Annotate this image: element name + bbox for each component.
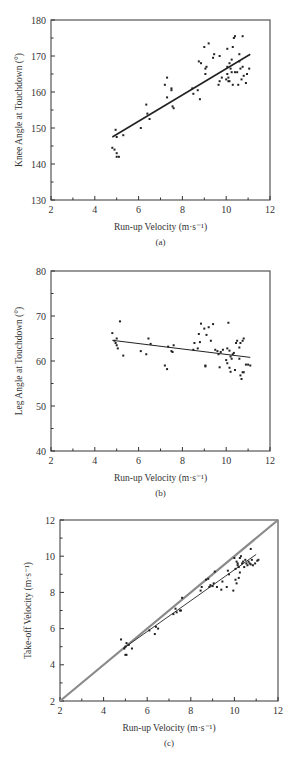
x-axis-label: Run-up Velocity (m·s⁻¹) xyxy=(114,222,207,233)
data-point xyxy=(245,364,247,366)
data-point xyxy=(204,73,206,75)
data-point xyxy=(238,53,240,55)
data-point xyxy=(219,55,221,57)
data-point xyxy=(191,87,193,89)
data-point xyxy=(125,654,127,656)
y-tick-label: 130 xyxy=(31,195,46,206)
data-point xyxy=(228,350,230,352)
data-point xyxy=(204,68,206,70)
data-point xyxy=(238,577,240,579)
y-tick-label: 40 xyxy=(36,446,46,457)
data-point xyxy=(238,566,240,568)
x-axis-label: Run-up Velocity (m·s⁻¹) xyxy=(122,723,215,734)
data-point xyxy=(245,562,247,564)
data-point xyxy=(118,156,120,158)
data-point xyxy=(203,328,205,330)
data-point xyxy=(230,68,232,70)
data-point xyxy=(128,644,130,646)
x-tick-label: 10 xyxy=(229,705,239,716)
data-point xyxy=(250,548,252,550)
data-point xyxy=(225,78,227,80)
x-tick-label: 2 xyxy=(58,705,63,716)
data-point xyxy=(170,87,172,89)
data-point xyxy=(246,564,248,566)
x-tick-label: 8 xyxy=(180,455,185,466)
data-point xyxy=(226,48,228,50)
data-point xyxy=(238,358,240,360)
data-point xyxy=(166,368,168,370)
figure-charts: 24681012130140150160170180Run-up Velocit… xyxy=(0,0,294,766)
data-point xyxy=(244,559,246,561)
data-point xyxy=(205,579,207,581)
data-point xyxy=(225,359,227,361)
data-point xyxy=(230,356,232,358)
data-point xyxy=(218,84,220,86)
chart-c: 2468101224681012Run-up Velocity (m·s⁻¹)T… xyxy=(23,515,283,749)
x-tick-label: 8 xyxy=(180,204,185,215)
data-point xyxy=(200,62,202,64)
data-point xyxy=(216,586,218,588)
data-point xyxy=(117,347,119,349)
data-point xyxy=(214,349,216,351)
data-point xyxy=(164,84,166,86)
data-point xyxy=(111,147,113,149)
data-point xyxy=(234,369,236,371)
data-point xyxy=(172,613,174,615)
data-point xyxy=(114,340,116,342)
y-tick-label: 140 xyxy=(31,159,46,170)
data-point xyxy=(176,611,178,613)
plot-frame xyxy=(51,20,270,200)
data-point xyxy=(198,333,200,335)
data-point xyxy=(122,134,124,136)
data-point xyxy=(218,353,220,355)
data-point xyxy=(226,362,228,364)
data-point xyxy=(222,349,224,351)
data-point xyxy=(239,374,241,376)
data-point xyxy=(239,557,241,559)
data-point xyxy=(146,113,148,115)
x-tick-label: 6 xyxy=(136,455,141,466)
data-point xyxy=(216,350,218,352)
data-point xyxy=(198,60,200,62)
data-point xyxy=(140,127,142,129)
data-point xyxy=(237,564,239,566)
data-point xyxy=(204,365,206,367)
data-point xyxy=(175,608,177,610)
data-point xyxy=(213,582,215,584)
x-tick-label: 2 xyxy=(49,455,54,466)
x-tick-label: 12 xyxy=(273,705,283,716)
y-tick-label: 80 xyxy=(36,266,46,277)
data-point xyxy=(241,78,243,80)
data-point xyxy=(227,570,229,572)
data-point xyxy=(214,571,216,573)
data-point xyxy=(248,68,250,70)
data-point xyxy=(116,156,118,158)
data-point xyxy=(233,557,235,559)
data-point xyxy=(219,80,221,82)
data-point xyxy=(228,573,230,575)
data-point xyxy=(220,589,222,591)
data-point xyxy=(219,366,221,368)
data-point xyxy=(172,351,174,353)
data-point xyxy=(226,66,228,68)
data-point xyxy=(199,341,201,343)
data-point xyxy=(173,107,175,109)
data-point xyxy=(242,35,244,37)
y-axis-label: Leg Angle at Touchdown (°) xyxy=(14,307,25,416)
figure-caption: (a) xyxy=(156,237,166,247)
data-point xyxy=(226,73,228,75)
data-point xyxy=(192,93,194,95)
data-point xyxy=(228,80,230,82)
data-point xyxy=(220,351,222,353)
data-point xyxy=(250,563,252,565)
data-point xyxy=(232,84,234,86)
x-tick-label: 12 xyxy=(265,455,275,466)
data-point xyxy=(234,579,236,581)
figure-caption: (b) xyxy=(155,488,166,498)
data-point xyxy=(239,571,241,573)
chart-b: 246810124050607080Run-up Velocity (m·s⁻¹… xyxy=(14,266,275,499)
data-point xyxy=(155,626,157,628)
data-point xyxy=(120,638,122,640)
data-point xyxy=(248,561,250,563)
data-point xyxy=(124,646,126,648)
